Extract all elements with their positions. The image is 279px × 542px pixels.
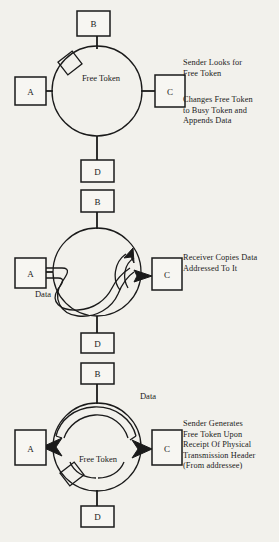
- node-a-ring2-label: A: [27, 269, 34, 279]
- ring-circle-1: [52, 46, 142, 136]
- node-c-ring2-label: C: [164, 270, 170, 280]
- token-arc-right-ring3: [98, 462, 124, 478]
- data-arrowhead-to-c-ring2: [134, 270, 152, 282]
- ring-circle-2: [53, 228, 141, 316]
- node-b-ring1-label: B: [90, 19, 96, 29]
- ring3-data-label: Data: [140, 391, 156, 401]
- data-arrowhead-to-c-ring3: [132, 440, 152, 458]
- node-b-ring2-label: B: [94, 197, 100, 207]
- data-band-inner-ring3: [64, 415, 128, 438]
- caption-stage3: Sender Generates Free Token Upon Receipt…: [183, 419, 255, 472]
- stage-2-group: B A C D Data: [15, 190, 182, 353]
- caption-stage2: Receiver Copies Data Addressed To It: [183, 253, 257, 274]
- data-band-outer-ring3: [56, 407, 136, 436]
- data-band-join-right-ring3: [130, 436, 136, 440]
- stage-3-group: B A C D Free Token: [15, 363, 182, 527]
- caption-stage1-line2: Changes Free Token to Busy Token and App…: [183, 95, 253, 127]
- node-a-ring1-label: A: [27, 87, 34, 97]
- node-c-ring3-label: C: [164, 444, 170, 454]
- ring2-data-label: Data: [35, 289, 51, 299]
- node-a-ring3-label: A: [27, 444, 34, 454]
- stage-1-group: B A C D Free Token: [15, 11, 185, 182]
- ring-circle-3: [53, 403, 141, 491]
- node-d-ring2-label: D: [94, 339, 101, 349]
- node-d-ring3-label: D: [94, 512, 101, 522]
- token-ring-diagram: B A C D Free Token B: [0, 0, 279, 542]
- data-arrowhead-return-ring2: [124, 248, 134, 263]
- ring3-token-label: Free Token: [79, 454, 118, 464]
- node-b-ring3-label: B: [94, 369, 100, 379]
- node-c-ring1-label: C: [167, 87, 173, 97]
- caption-stage1-line1: Sender Looks for Free Token: [183, 58, 242, 79]
- ring1-token-label: Free Token: [82, 73, 121, 83]
- node-d-ring1-label: D: [94, 167, 101, 177]
- data-band-join-left-ring3: [56, 436, 62, 438]
